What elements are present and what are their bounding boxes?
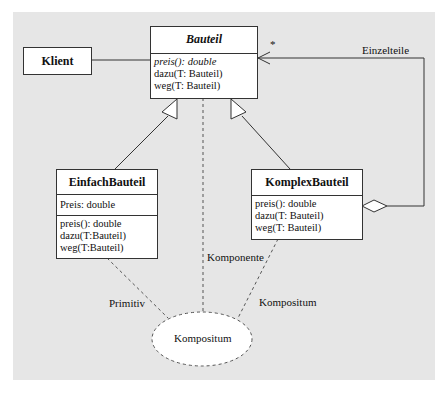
operations-section: preis(): double dazu(T: Bauteil) weg(T: … — [151, 53, 257, 94]
generalization-einfach-line — [115, 116, 168, 169]
generalization-triangle-icon — [162, 99, 177, 119]
role-label-einzelteile: Einzelteile — [362, 44, 409, 56]
attribute: Preis: double — [60, 197, 154, 213]
operation: dazu(T: Bauteil) — [154, 68, 254, 80]
role-label-komponente: Komponente — [207, 251, 264, 263]
operation: dazu(T:Bauteil) — [60, 230, 154, 242]
operation: preis(): double — [60, 218, 154, 230]
class-name: KomplexBauteil — [252, 170, 362, 195]
operation: weg(T: Bauteil) — [154, 80, 254, 92]
collab-line-primitiv — [107, 258, 168, 318]
operations-section: preis(): double dazu(T: Bauteil) weg(T: … — [252, 195, 362, 236]
collaboration-label: Kompositum — [174, 332, 231, 344]
attributes-section: Preis: double — [57, 194, 157, 215]
aggregation-diamond-icon — [362, 200, 387, 212]
class-bauteil[interactable]: Bauteil preis(): double dazu(T: Bauteil)… — [150, 26, 258, 99]
generalization-triangle-icon — [231, 99, 246, 119]
multiplicity-label: * — [270, 38, 276, 50]
class-name: Bauteil — [151, 27, 257, 53]
generalization-komplex-line — [242, 116, 290, 169]
role-label-kompositum: Kompositum — [259, 296, 316, 308]
class-name: EinfachBauteil — [57, 170, 157, 194]
operation: preis(): double — [154, 56, 254, 68]
operation: weg(T: Bauteil) — [255, 222, 359, 234]
class-komplexbauteil[interactable]: KomplexBauteil preis(): double dazu(T: B… — [251, 169, 363, 240]
class-name: Klient — [24, 48, 91, 74]
class-klient[interactable]: Klient — [23, 47, 92, 75]
operation: dazu(T: Bauteil) — [255, 210, 359, 222]
role-label-primitiv: Primitiv — [109, 297, 145, 309]
operation: preis(): double — [255, 198, 359, 210]
class-einfachbauteil[interactable]: EinfachBauteil Preis: double preis(): do… — [56, 169, 158, 259]
operations-section: preis(): double dazu(T:Bauteil) weg(T:Ba… — [57, 215, 157, 256]
operation: weg(T:Bauteil) — [60, 242, 154, 254]
